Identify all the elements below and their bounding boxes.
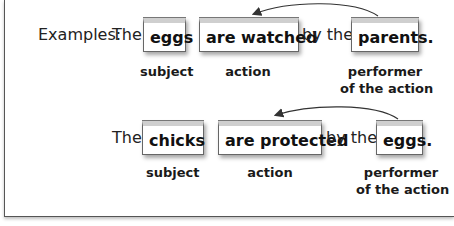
row1-action-text: are watched [206, 28, 318, 47]
row1-subject-label: subject [140, 63, 190, 80]
row2-subject-box: chicks [142, 121, 204, 155]
row2-action-label: action [245, 164, 295, 181]
row2-connector: by the [326, 128, 377, 148]
row2-performer-label-2: of the action [356, 181, 446, 198]
row2-performer-box: eggs. [376, 121, 423, 155]
row2-performer-label-1: performer [356, 164, 446, 181]
row2-action-box: are protected [218, 121, 322, 155]
examples-label: Examples: [38, 25, 121, 45]
row2-subject-label: subject [146, 164, 196, 181]
row1-subject-text: eggs [150, 28, 193, 47]
row1-connector: by the [302, 25, 353, 45]
row1-performer-text: parents. [358, 28, 434, 47]
row2-subject-text: chicks [149, 131, 205, 150]
row1-performer-box: parents. [351, 18, 419, 52]
row1-performer-label-1: performer [340, 63, 430, 80]
row1-article: The [112, 25, 142, 45]
row1-performer-label-2: of the action [340, 80, 430, 97]
row1-subject-box: eggs [143, 18, 186, 52]
row2-article: The [112, 128, 142, 148]
row1-action-box: are watched [199, 18, 299, 52]
row2-performer-text: eggs. [383, 131, 432, 150]
row1-action-label: action [223, 63, 273, 80]
